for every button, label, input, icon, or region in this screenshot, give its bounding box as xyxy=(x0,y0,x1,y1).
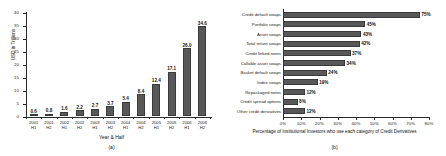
bar-a xyxy=(45,114,53,116)
x-tick-b xyxy=(320,117,321,120)
x-category-label-a: 2003H2 xyxy=(103,120,117,130)
category-label-b: Callable asset swaps xyxy=(223,61,281,66)
category-label-b: Total return swaps xyxy=(223,41,281,46)
bar-b xyxy=(283,12,420,18)
x-tick-b xyxy=(356,117,357,120)
x-tick-label-b: 50% xyxy=(367,121,381,126)
bar-value-label-a: 12.4 xyxy=(149,78,164,83)
x-tick-label-b: 30% xyxy=(331,121,345,126)
x-category-label-a: 2006H2 xyxy=(195,120,209,130)
bar-value-label-b: 34% xyxy=(347,61,356,66)
category-label-b: Asset swaps xyxy=(223,32,281,37)
y-tick-label-a: 30 xyxy=(5,36,19,41)
category-label-b: Portfolio swaps xyxy=(223,22,281,27)
bar-value-label-b: 12% xyxy=(306,90,315,95)
category-label-b: Credit default swaps xyxy=(223,12,281,17)
x-tick-b xyxy=(374,117,375,120)
x-tick-b xyxy=(338,117,339,120)
bar-value-label-b: 24% xyxy=(328,70,337,75)
bar-value-label-a: 5.4 xyxy=(118,96,133,101)
y-tick-label-a: 35 xyxy=(5,23,19,28)
x-tick-b xyxy=(283,117,284,120)
y-tick-label-a: 40 xyxy=(5,10,19,15)
bar-a xyxy=(30,114,38,116)
x-category-label-a: 2004H1 xyxy=(119,120,133,130)
x-tick-label-b: 60% xyxy=(386,121,400,126)
bar-value-label-a: 2.7 xyxy=(87,103,102,108)
bar-value-label-b: 37% xyxy=(352,51,361,56)
y-tick-label-a: 0 xyxy=(5,114,19,119)
x-category-label-a: 2005H1 xyxy=(149,120,163,130)
y-tick-label-a: 25 xyxy=(5,49,19,54)
x-tick-label-b: 80% xyxy=(422,121,436,126)
bar-value-label-b: 75% xyxy=(421,12,430,17)
bar-a xyxy=(106,106,114,116)
chart-panel-a: USD in Trillions 0510152025303540 2001H1… xyxy=(0,0,223,156)
x-tick-b xyxy=(301,117,302,120)
x-category-label-a: 2004H2 xyxy=(134,120,148,130)
bar-b xyxy=(283,108,305,114)
bar-a xyxy=(137,94,145,116)
category-label-b: Index swaps xyxy=(223,80,281,85)
bar-value-label-a: 26.0 xyxy=(179,43,194,48)
bar-value-label-a: 0.8 xyxy=(41,108,56,113)
panel-a-caption: (a) xyxy=(0,144,223,150)
bar-b xyxy=(283,60,345,66)
x-tick-b xyxy=(429,117,430,120)
bar-value-label-a: 0.6 xyxy=(26,109,41,114)
bar-a xyxy=(183,48,191,116)
y-tick-label-a: 15 xyxy=(5,75,19,80)
y-tick-label-a: 10 xyxy=(5,88,19,93)
x-category-label-a: 2003H1 xyxy=(88,120,102,130)
bar-value-label-b: 45% xyxy=(367,22,376,27)
bar-a xyxy=(198,26,206,116)
y-tick-label-a: 5 xyxy=(5,101,19,106)
category-label-b: Credit linked notes xyxy=(223,51,281,56)
x-tick-label-b: 40% xyxy=(349,121,363,126)
bar-b xyxy=(283,31,361,37)
x-tick-b xyxy=(411,117,412,120)
bar-b xyxy=(283,50,351,56)
bar-value-label-b: 8% xyxy=(299,99,306,104)
x-category-label-a: 2002H2 xyxy=(73,120,87,130)
bar-value-label-a: 2.2 xyxy=(72,105,87,110)
x-category-label-a: 2001H1 xyxy=(27,120,41,130)
bar-a xyxy=(152,84,160,116)
bar-value-label-b: 19% xyxy=(319,80,328,85)
chart-panel-b: Credit default swapsPortfolio swapsAsset… xyxy=(223,0,446,156)
bar-a xyxy=(168,72,176,116)
bar-value-label-a: 8.4 xyxy=(133,89,148,94)
bar-a xyxy=(60,112,68,116)
x-tick-label-b: 10% xyxy=(294,121,308,126)
bar-a xyxy=(122,102,130,116)
bar-value-label-a: 3.7 xyxy=(103,101,118,106)
bar-b xyxy=(283,79,318,85)
x-tick-a xyxy=(210,117,211,120)
category-label-b: Basket default swaps xyxy=(223,70,281,75)
bar-b xyxy=(283,99,298,105)
bar-value-label-b: 12% xyxy=(306,109,315,114)
x-tick-label-b: 20% xyxy=(313,121,327,126)
bar-value-label-a: 1.6 xyxy=(57,106,72,111)
bar-value-label-b: 43% xyxy=(363,32,372,37)
figure-sheet: USD in Trillions 0510152025303540 2001H1… xyxy=(0,0,446,156)
category-label-b: Credit spread options xyxy=(223,99,281,104)
x-category-label-a: 2005H2 xyxy=(165,120,179,130)
bar-b xyxy=(283,70,327,76)
category-label-b: Other credit derivatives xyxy=(223,109,281,114)
x-tick-b xyxy=(393,117,394,120)
bar-b xyxy=(283,21,365,27)
x-axis-title-b: Percentage of Institutional Investors wh… xyxy=(225,129,444,134)
bar-value-label-b: 42% xyxy=(361,41,370,46)
bar-b xyxy=(283,41,360,47)
x-tick-a xyxy=(26,117,27,120)
x-category-label-a: 2002H1 xyxy=(57,120,71,130)
x-axis-title-a: Year & Half xyxy=(0,134,223,140)
panel-b-caption: (b) xyxy=(223,144,446,150)
x-tick-label-b: 0% xyxy=(276,121,290,126)
bar-a xyxy=(76,110,84,116)
x-category-label-a: 2006H1 xyxy=(180,120,194,130)
bar-value-label-a: 34.6 xyxy=(195,21,210,26)
bar-a xyxy=(91,109,99,116)
y-tick-label-a: 20 xyxy=(5,62,19,67)
